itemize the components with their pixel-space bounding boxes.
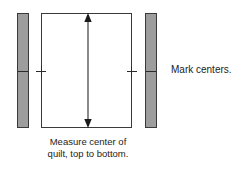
center-mark-right-quilt-crosshair [131,66,132,77]
center-mark-left-strip [18,71,28,72]
mark-centers-label: Mark centers. [171,64,232,76]
vertical-measure-arrow-icon [80,12,96,129]
measure-caption: Measure center of quilt, top to bottom. [36,136,140,159]
measure-caption-line-1: Measure center of [36,136,140,148]
center-mark-right-quilt-edge [127,71,137,72]
center-mark-right-strip [146,71,156,72]
measure-caption-line-2: quilt, top to bottom. [36,148,140,160]
center-mark-left-quilt-crosshair [41,66,42,77]
quilt-measuring-diagram: Mark centers. Measure center of quilt, t… [0,0,251,169]
